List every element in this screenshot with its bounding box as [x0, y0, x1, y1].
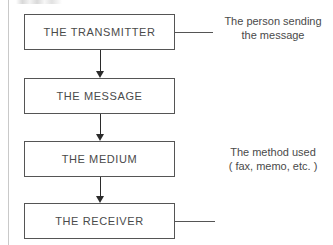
- arrow-head: [96, 134, 104, 141]
- process-box-message[interactable]: THE MESSAGE: [24, 78, 175, 114]
- annotation-line: The person sending: [214, 14, 332, 28]
- leader-line-transmitter: [175, 32, 213, 33]
- leader-line-receiver: [175, 221, 215, 222]
- process-box-receiver[interactable]: THE RECEIVER: [24, 203, 175, 239]
- annotation-line: the message: [214, 28, 332, 42]
- arrow-stem: [100, 177, 101, 196]
- arrow-down-icon: [96, 177, 105, 203]
- arrow-head: [96, 71, 104, 78]
- arrow-down-icon: [96, 114, 105, 141]
- process-box-label: THE RECEIVER: [55, 215, 144, 227]
- annotation-transmitter: The person sending the message: [214, 14, 332, 42]
- process-box-label: THE TRANSMITTER: [43, 26, 155, 38]
- diagram-canvas: THE TRANSMITTER THE MESSAGE THE MEDIUM T…: [0, 0, 333, 245]
- process-box-label: THE MESSAGE: [56, 90, 142, 102]
- annotation-line: The method used: [214, 145, 332, 159]
- arrow-stem: [100, 50, 101, 71]
- process-box-label: THE MEDIUM: [62, 153, 138, 165]
- process-box-transmitter[interactable]: THE TRANSMITTER: [24, 14, 175, 50]
- arrow-head: [96, 196, 104, 203]
- process-box-medium[interactable]: THE MEDIUM: [24, 141, 175, 177]
- arrow-down-icon: [96, 50, 105, 78]
- page-margin-rule: [8, 0, 9, 245]
- annotation-medium: The method used ( fax, memo, etc. ): [214, 145, 332, 173]
- clipped-text-above-crop: [16, 0, 62, 4]
- annotation-line: ( fax, memo, etc. ): [214, 159, 332, 173]
- arrow-stem: [100, 114, 101, 134]
